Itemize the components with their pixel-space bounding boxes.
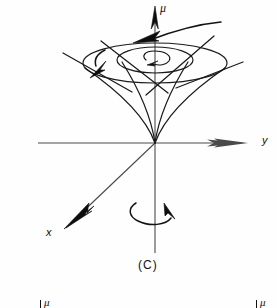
figure-container: μ y x (C) μ μ: [0, 0, 277, 308]
x-axis-arrowhead: [64, 203, 94, 229]
cone-group: [63, 36, 243, 143]
figure-caption: (C): [138, 258, 158, 272]
partial-mu-left-tick: [40, 300, 41, 308]
spin-spiral-arrow-curve: [144, 51, 170, 65]
precession-arrow-outer-curve: [150, 22, 221, 40]
mu-axis-label: μ: [160, 2, 166, 14]
x-axis-label: x: [46, 227, 52, 238]
partial-mu-right-tick: [256, 300, 257, 308]
partial-mu-right: μ: [260, 296, 266, 308]
rotation-arrow-bottom-head: [164, 203, 175, 219]
partial-mu-left: μ: [44, 296, 50, 308]
y-axis-label: y: [262, 135, 268, 146]
